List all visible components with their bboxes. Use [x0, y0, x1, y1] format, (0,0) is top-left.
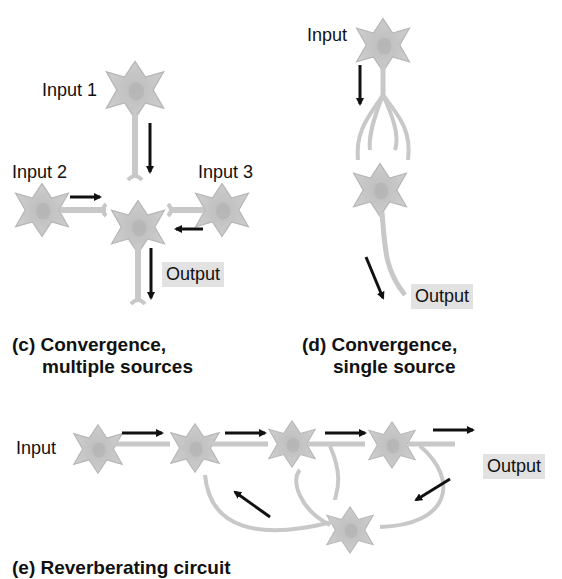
- neuron-output-d: [354, 164, 407, 217]
- neuron-input1: [106, 61, 163, 118]
- neuron-input-d: [357, 19, 410, 72]
- caption-c-line1: (c) Convergence,: [12, 334, 166, 356]
- label-output-d: Output: [411, 284, 473, 309]
- neuron-output-c: [112, 201, 165, 254]
- arrow-diag-d: [366, 257, 383, 298]
- label-input-e: Input: [16, 438, 56, 459]
- label-output-e: Output: [483, 454, 545, 479]
- label-input-d: Input: [307, 25, 347, 46]
- label-input1: Input 1: [42, 80, 97, 101]
- label-input3: Input 3: [198, 162, 253, 183]
- caption-d-line2: single source: [333, 356, 456, 378]
- label-output-c: Output: [162, 262, 224, 287]
- label-input2: Input 2: [12, 162, 67, 183]
- caption-c-line2: multiple sources: [42, 356, 193, 378]
- panel-d-convergence-single: [354, 19, 410, 298]
- caption-d-line1: (d) Convergence,: [302, 334, 457, 356]
- panel-e-reverberating: [74, 421, 473, 553]
- caption-e: (e) Reverberating circuit: [12, 557, 231, 579]
